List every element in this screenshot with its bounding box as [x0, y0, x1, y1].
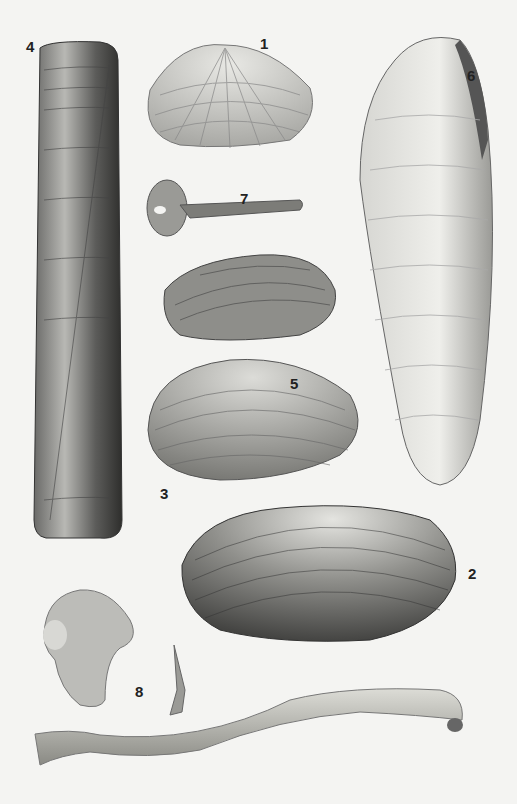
figure-label-4: 4: [26, 38, 34, 55]
figure-label-2: 2: [468, 565, 476, 582]
figure-label-3: 3: [160, 485, 168, 502]
figure-label-1: 1: [260, 35, 268, 52]
figure-label-7: 7: [240, 190, 248, 207]
shell-illustration: [0, 0, 517, 804]
shell-plate: [0, 0, 517, 804]
figure-label-8: 8: [135, 683, 143, 700]
figure-label-6: 6: [467, 67, 475, 84]
figure-label-5: 5: [290, 375, 298, 392]
